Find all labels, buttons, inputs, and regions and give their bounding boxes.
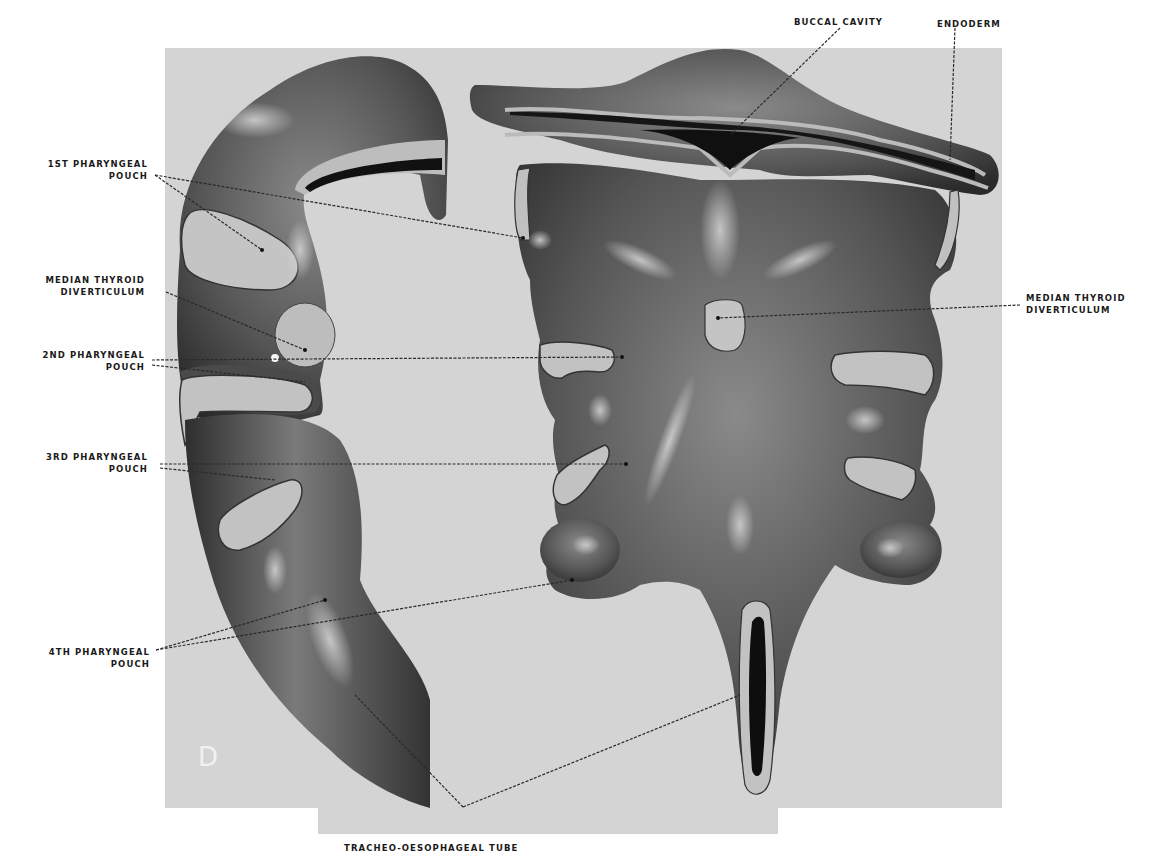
label-endoderm: ENDODERM (937, 18, 1001, 30)
label-line: 1ST PHARYNGEAL (48, 158, 148, 170)
label-tracheo-oesophageal-tube: TRACHEO-OESOPHAGEAL TUBE (344, 842, 518, 854)
panel-letter: D (198, 742, 218, 772)
label-line: 3RD PHARYNGEAL (46, 451, 148, 463)
label-line: DIVERTICULUM (45, 286, 145, 298)
label-3rd-pharyngeal-pouch: 3RD PHARYNGEAL POUCH (46, 451, 148, 475)
label-median-thyroid-diverticulum-left: MEDIAN THYROID DIVERTICULUM (45, 274, 145, 298)
label-line: POUCH (49, 658, 150, 670)
label-line: 2ND PHARYNGEAL (43, 349, 146, 361)
label-4th-pharyngeal-pouch: 4TH PHARYNGEAL POUCH (49, 646, 150, 670)
label-line: POUCH (43, 361, 146, 373)
label-line: ENDODERM (937, 18, 1001, 30)
label-line: DIVERTICULUM (1026, 304, 1126, 316)
label-buccal-cavity: BUCCAL CAVITY (794, 16, 883, 28)
label-1st-pharyngeal-pouch: 1ST PHARYNGEAL POUCH (48, 158, 148, 182)
label-line: TRACHEO-OESOPHAGEAL TUBE (344, 842, 518, 854)
label-line: POUCH (46, 463, 148, 475)
label-line: POUCH (48, 170, 148, 182)
pharyngeal-gut-illustration (0, 0, 1160, 862)
label-2nd-pharyngeal-pouch: 2ND PHARYNGEAL POUCH (43, 349, 146, 373)
label-line: 4TH PHARYNGEAL (49, 646, 150, 658)
label-line: MEDIAN THYROID (1026, 292, 1126, 304)
label-line: BUCCAL CAVITY (794, 16, 883, 28)
label-median-thyroid-diverticulum-right: MEDIAN THYROID DIVERTICULUM (1026, 292, 1126, 316)
label-line: MEDIAN THYROID (45, 274, 145, 286)
